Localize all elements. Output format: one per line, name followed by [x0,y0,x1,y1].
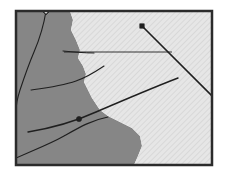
map-figure [0,0,228,176]
figure-root [0,0,228,176]
filled-square-marker [140,24,144,28]
map-content [16,10,212,165]
filled-circle-marker [76,116,81,121]
